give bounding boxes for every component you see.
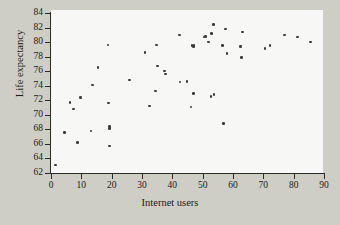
data-point [224,28,227,31]
y-axis-tick [45,144,50,145]
data-point [241,31,244,34]
data-point [72,108,75,111]
data-point [178,34,181,37]
data-point [107,44,110,47]
x-axis-tick [172,174,173,179]
data-point [226,52,229,55]
data-point [97,66,100,69]
data-point [222,122,225,125]
data-point [193,44,196,47]
data-point [148,105,151,108]
data-point [240,56,243,59]
x-axis-tick-label: 40 [161,181,183,191]
data-point [155,44,158,47]
x-axis-tick [233,174,234,179]
x-axis-tick-label: 0 [40,181,62,191]
data-point [156,65,159,68]
y-axis-tick [45,71,50,72]
y-axis-tick-label: 84 [23,8,43,18]
y-axis-tick-label: 72 [23,95,43,105]
data-point [264,47,267,50]
x-axis-tick-label: 90 [313,181,335,191]
data-point [207,41,210,44]
y-axis-tick-label: 80 [23,37,43,47]
data-point [296,36,299,39]
data-point [154,90,157,93]
y-axis-tick-label: 66 [23,139,43,149]
y-axis-tick-label: 70 [23,110,43,120]
data-point [221,44,224,47]
data-point [186,80,189,83]
x-axis-tick [263,174,264,179]
data-point [91,84,94,87]
y-axis-tick [45,28,50,29]
y-axis-tick [45,173,50,174]
scatter-plot-figure: 6264666870727476788082840102030405060708… [0,0,340,225]
x-axis-tick [142,174,143,179]
y-axis-tick-label: 68 [23,124,43,134]
data-point [179,81,182,84]
y-axis-tick [45,42,50,43]
x-axis-tick [324,174,325,179]
x-axis-label: Internet users [0,197,340,208]
y-axis-label: Life expectancy [14,9,25,119]
y-axis-tick [45,57,50,58]
data-point [269,44,272,47]
data-points-layer [51,13,324,173]
data-point [190,106,193,109]
data-point [63,131,66,134]
data-point [108,127,111,130]
data-point [76,141,79,144]
x-axis-tick [81,174,82,179]
y-axis-tick-label: 62 [23,168,43,178]
x-axis-tick-label: 30 [131,181,153,191]
x-axis-tick-label: 10 [70,181,92,191]
y-axis-tick-label: 76 [23,66,43,76]
data-point [204,35,207,38]
data-point [210,32,213,35]
data-point [79,96,82,99]
x-axis-tick-label: 20 [101,181,123,191]
y-axis-tick [45,13,50,14]
y-axis-tick-label: 74 [23,81,43,91]
x-axis-tick-label: 50 [192,181,214,191]
data-point [239,45,242,48]
data-point [309,41,312,44]
x-axis-tick-label: 70 [252,181,274,191]
x-axis-tick [294,174,295,179]
data-point [108,145,111,148]
data-point [144,51,147,54]
y-axis-tick-label: 78 [23,52,43,62]
data-point [69,101,72,104]
x-axis-tick-label: 60 [222,181,244,191]
x-axis-tick [203,174,204,179]
data-point [107,102,110,105]
y-axis-tick [45,158,50,159]
x-axis-tick-label: 80 [283,181,305,191]
data-point [90,130,93,133]
data-point [213,93,216,96]
data-point [210,95,213,98]
y-axis-tick [45,115,50,116]
data-point [212,23,215,26]
x-axis-tick [112,174,113,179]
x-axis-tick [51,174,52,179]
data-point [128,79,131,82]
data-point [192,92,195,95]
data-point [283,34,286,37]
y-axis-tick [45,86,50,87]
data-point [54,164,57,167]
data-point [164,73,167,76]
y-axis-tick-label: 64 [23,153,43,163]
y-axis-tick-label: 82 [23,23,43,33]
y-axis-tick [45,129,50,130]
x-axis-line [50,173,325,174]
y-axis-tick [45,100,50,101]
